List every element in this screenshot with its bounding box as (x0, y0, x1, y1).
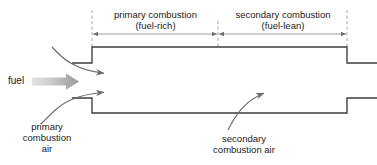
primary-air-arrow-lower (52, 92, 104, 113)
primary-air-arrow-upper (52, 47, 104, 73)
secondary-air-flow-arrow (228, 93, 264, 130)
duct-bottom-wall (72, 98, 377, 113)
primary-combustion-air-label: primary combustion air (8, 121, 86, 154)
fuel-inlet-label: fuel (8, 75, 24, 86)
combustion-duct-diagram: primary combustion (fuel-rich) secondary… (0, 0, 377, 165)
duct-top-wall (72, 47, 377, 63)
zone-label-primary-combustion: primary combustion (fuel-rich) (92, 9, 219, 31)
duct-walls (72, 47, 377, 113)
fuel-flow-arrow (32, 74, 79, 90)
secondary-combustion-air-label: secondary combustion air (186, 133, 302, 155)
zone-label-secondary-combustion: secondary combustion (fuel-lean) (219, 9, 347, 31)
